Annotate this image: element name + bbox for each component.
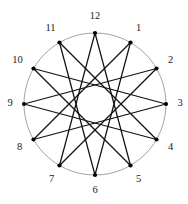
vertex-label-4: 4 bbox=[168, 141, 174, 152]
vertex-label-1: 1 bbox=[136, 22, 141, 33]
vertex-dot-9 bbox=[22, 102, 26, 106]
vertex-label-10: 10 bbox=[12, 54, 23, 65]
vertex-dot-12 bbox=[93, 31, 97, 35]
vertex-label-9: 9 bbox=[7, 97, 12, 108]
vertex-dot-4 bbox=[154, 137, 158, 141]
vertex-label-8: 8 bbox=[17, 141, 22, 152]
chord-layer bbox=[24, 33, 166, 175]
vertex-dot-6 bbox=[93, 173, 97, 177]
vertex-dot-1 bbox=[128, 40, 132, 44]
vertex-dot-5 bbox=[128, 163, 132, 167]
star-polygon-figure: 121234567891011 bbox=[0, 0, 188, 204]
vertex-label-5: 5 bbox=[136, 173, 141, 184]
vertex-label-6: 6 bbox=[92, 184, 97, 195]
vertex-label-3: 3 bbox=[177, 97, 182, 108]
vertex-label-layer: 121234567891011 bbox=[7, 10, 182, 195]
vertex-label-2: 2 bbox=[168, 54, 173, 65]
outer-circle bbox=[24, 33, 166, 175]
vertex-dot-2 bbox=[154, 66, 158, 70]
outer-circle-layer bbox=[24, 33, 166, 175]
star-polygon-canvas: 121234567891011 bbox=[0, 0, 188, 204]
vertex-dot-8 bbox=[31, 137, 35, 141]
vertex-label-7: 7 bbox=[49, 173, 54, 184]
vertex-dot-7 bbox=[57, 163, 61, 167]
vertex-label-11: 11 bbox=[45, 22, 55, 33]
vertex-dot-10 bbox=[31, 66, 35, 70]
vertex-dot-3 bbox=[164, 102, 168, 106]
vertex-dot-11 bbox=[57, 40, 61, 44]
vertex-label-12: 12 bbox=[90, 10, 101, 21]
vertex-dot-layer bbox=[22, 31, 168, 177]
